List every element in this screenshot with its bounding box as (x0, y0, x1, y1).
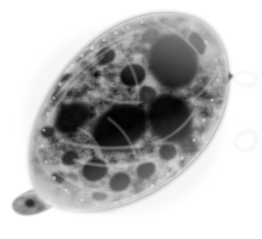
specimen-image (0, 0, 262, 239)
micrograph-canvas: Lemon shaped specimen with deeply pitted… (0, 0, 262, 239)
